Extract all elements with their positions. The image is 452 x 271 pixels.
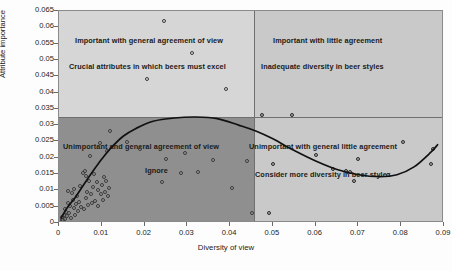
- y-axis-tick-label: 0.03: [0, 119, 54, 128]
- trend-line-path: [61, 117, 437, 218]
- x-axis-tick-label: 0.04: [222, 228, 237, 237]
- x-axis-tick-label: 0.01: [93, 228, 108, 237]
- x-axis-tick-label: 0.02: [136, 228, 151, 237]
- y-axis-tick-label: 0.015: [0, 168, 54, 177]
- x-axis-tick-mark: [229, 222, 230, 226]
- x-axis-tick-label: 0: [56, 228, 60, 237]
- x-axis-tick-mark: [186, 222, 187, 226]
- x-axis-tick-label: 0.08: [393, 228, 408, 237]
- plot-area: Important with general agreement of view…: [58, 10, 443, 222]
- trend-line-svg: [59, 11, 443, 222]
- y-axis-tick-label: 0.025: [0, 135, 54, 144]
- x-axis-tick-label: 0.05: [264, 228, 279, 237]
- y-axis-tick-label: 0.02: [0, 152, 54, 161]
- chart-figure: Attribute importance 00.0050.010.0150.02…: [0, 0, 452, 271]
- y-axis-tick-label: 0.045: [0, 70, 54, 79]
- x-axis-tick-mark: [443, 222, 444, 226]
- y-axis-tick-label: 0: [0, 217, 54, 226]
- y-axis-tick-label: 0.01: [0, 184, 54, 193]
- x-axis-tick-label: 0.06: [307, 228, 322, 237]
- y-axis-tick-label: 0.05: [0, 54, 54, 63]
- x-axis-label: Diversity of view: [0, 243, 452, 252]
- y-axis-tick-label: 0.005: [0, 201, 54, 210]
- x-axis-tick-mark: [144, 222, 145, 226]
- y-axis-tick-label: 0.035: [0, 103, 54, 112]
- x-axis-tick-mark: [315, 222, 316, 226]
- y-axis-tick-label: 0.06: [0, 21, 54, 30]
- y-axis-tick-label: 0.065: [0, 5, 54, 14]
- x-axis-tick-mark: [58, 222, 59, 226]
- x-axis-tick-mark: [400, 222, 401, 226]
- x-axis-tick-mark: [101, 222, 102, 226]
- x-axis-tick-mark: [272, 222, 273, 226]
- x-axis-tick-label: 0.09: [436, 228, 451, 237]
- y-axis-tick-label: 0.055: [0, 38, 54, 47]
- y-axis-tick-label: 0.04: [0, 87, 54, 96]
- x-axis-tick-label: 0.07: [350, 228, 365, 237]
- x-axis-tick-label: 0.03: [179, 228, 194, 237]
- x-axis-tick-mark: [357, 222, 358, 226]
